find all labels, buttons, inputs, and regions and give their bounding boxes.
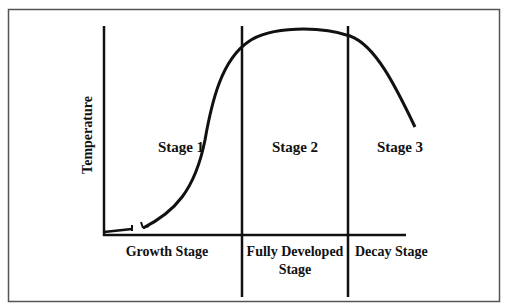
stage-1-label: Stage 1: [158, 139, 204, 155]
fully-developed-label-line2: Stage: [279, 262, 312, 277]
growth-stage-label: Growth Stage: [126, 244, 209, 259]
stage-2-label: Stage 2: [272, 139, 318, 155]
curve-incipient-segment: [104, 229, 132, 232]
decay-stage-label: Decay Stage: [355, 244, 428, 259]
temperature-curve: [143, 29, 415, 228]
y-axis-label: Temperature: [80, 96, 95, 174]
fully-developed-label-line1: Fully Developed: [247, 244, 344, 259]
diagram-canvas: Temperature Stage 1 Stage 2 Stage 3 Grow…: [0, 0, 507, 308]
fire-stages-diagram: Temperature Stage 1 Stage 2 Stage 3 Grow…: [0, 0, 507, 308]
stage-3-label: Stage 3: [377, 139, 423, 155]
